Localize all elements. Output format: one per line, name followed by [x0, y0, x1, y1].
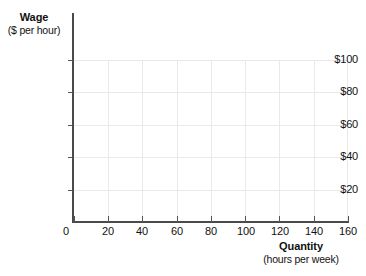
- gridline-vertical: [211, 60, 212, 222]
- x-axis-tick-label: 80: [191, 225, 231, 237]
- x-axis-tick: [108, 216, 109, 222]
- gridline-vertical: [108, 60, 109, 222]
- x-axis-tick: [74, 216, 75, 222]
- y-axis-tick: [68, 60, 73, 61]
- x-axis-title-sub: (hours per week): [236, 253, 366, 266]
- y-axis-line: [72, 13, 74, 223]
- y-axis-tick: [68, 157, 73, 158]
- x-axis-tick-label: 0: [46, 225, 86, 237]
- x-axis-tick: [211, 216, 212, 222]
- y-axis-tick: [68, 125, 73, 126]
- x-axis-title-main: Quantity: [236, 240, 366, 253]
- y-axis-tick: [68, 190, 73, 191]
- x-axis-tick-label: 160: [328, 225, 366, 237]
- y-axis-tick-label: $20: [300, 183, 366, 195]
- y-axis-tick-label: $80: [300, 85, 366, 97]
- x-axis-tick: [142, 216, 143, 222]
- gridline-vertical: [177, 60, 178, 222]
- y-axis-title-sub: ($ per hour): [0, 24, 68, 37]
- x-axis-tick: [177, 216, 178, 222]
- x-axis-tick: [314, 216, 315, 222]
- gridline-vertical: [279, 60, 280, 222]
- x-axis-tick: [348, 216, 349, 222]
- gridline-vertical: [142, 60, 143, 222]
- x-axis-tick: [245, 216, 246, 222]
- x-axis-tick-label: 40: [122, 225, 162, 237]
- gridline-vertical: [245, 60, 246, 222]
- y-axis-title: Wage ($ per hour): [0, 11, 68, 37]
- x-axis-tick: [279, 216, 280, 222]
- y-axis-title-main: Wage: [0, 11, 68, 24]
- y-axis-tick-label: $40: [300, 150, 366, 162]
- y-axis-tick: [68, 92, 73, 93]
- y-axis-tick-label: $60: [300, 118, 366, 130]
- blank-supply-demand-graph: Wage ($ per hour) $100 $80 $60 $40 $20: [0, 0, 366, 276]
- x-axis-title: Quantity (hours per week): [236, 240, 366, 266]
- y-axis-tick-label: $100: [300, 53, 366, 65]
